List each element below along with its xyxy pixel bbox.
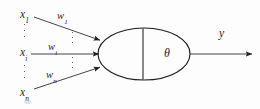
weight-label-w1-base: w [57,10,64,21]
neuron-diagram: x1 xi xn w1 wi wn θ y [0,0,260,109]
weight-label-w1-subscript: 1 [64,18,67,25]
threshold-theta-label: θ [164,47,170,59]
weight-label-wi-subscript: i [55,49,57,56]
neuron-ellipse [98,28,190,80]
weight-label-wn-subscript: n [53,77,56,84]
weight-label-wi-base: w [48,41,55,52]
weight-label-wn-base: w [46,69,53,80]
vertical-dots-inputs-lower [24,65,25,78]
diagram-canvas [0,0,260,109]
input-label-x1-subscript: 1 [25,16,29,25]
input-connections [31,17,100,89]
neuron-body [98,28,190,80]
weight-label-wi: wi [48,42,57,55]
weight-label-wn: wn [46,70,56,83]
weight-label-w1: w1 [57,11,67,24]
vertical-dots-weights-upper [72,32,73,43]
connection-xn-line [34,67,100,89]
vertical-dots-inputs-upper [24,24,25,37]
output-label-y: y [219,28,224,40]
input-label-xn: xn [20,87,29,101]
input-label-xi: xi [20,47,27,61]
vertical-dots-weights-lower [72,57,73,68]
input-label-x1: x1 [20,9,29,23]
scan-artifact-1 [24,100,31,104]
